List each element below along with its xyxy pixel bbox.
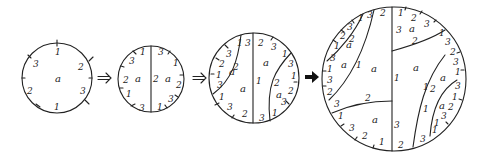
- edge-label: 3: [158, 47, 164, 57]
- disk-4: a a a a a a a a 3 2 1 2 3 1 3 2 3 1 3 2 …: [322, 7, 466, 151]
- edge-label: 1: [173, 58, 179, 68]
- edge-label: 1: [394, 73, 400, 83]
- face-label: a: [55, 73, 61, 84]
- edge-label: 3: [367, 10, 373, 20]
- face-label: a: [371, 63, 377, 74]
- edge-label: 2: [449, 47, 456, 57]
- edge-label: 3: [327, 75, 333, 85]
- double-arrow-icon: [193, 73, 206, 83]
- edge-label: 2: [287, 86, 294, 96]
- edge-label: 3: [259, 113, 265, 123]
- edge-label: 3: [334, 99, 340, 109]
- edge-label: 1: [439, 28, 445, 38]
- disk-3: a a a a 1 1 3 2 3 1 3 2 1 3 2 1 3 2 3 3 …: [209, 33, 299, 123]
- edge-label: 1: [423, 82, 429, 92]
- edge-label: 1: [356, 60, 362, 70]
- edge-label: 3: [80, 86, 86, 96]
- edge-label: 1: [398, 8, 404, 18]
- edge-label: 2: [339, 31, 346, 41]
- edge-label: 1: [423, 104, 429, 114]
- bold-arrow-icon: [305, 71, 319, 83]
- edge-label: 3: [129, 56, 135, 66]
- edge-label: 2: [379, 8, 386, 18]
- edge-label: 1: [434, 118, 440, 128]
- edge-label: 2: [122, 75, 129, 85]
- edge-label: 2: [175, 80, 182, 90]
- edge-label: 3: [424, 19, 430, 29]
- edge-label: 1: [272, 108, 278, 118]
- edge-label: 3: [139, 103, 145, 113]
- edge-label: 1: [157, 102, 163, 112]
- face-label: a: [341, 59, 347, 70]
- edge-label: 2: [26, 86, 33, 96]
- edge-label: 2: [326, 87, 333, 97]
- disk-2: a a 2 1 3 2 1 3 3 1 2 3 1: [118, 46, 184, 113]
- edge-label: 3: [445, 37, 451, 47]
- edge-label: 2: [152, 74, 159, 84]
- diagram-canvas: a 1 2 3 1 2 3 a a 2 1 3 2 1 3: [0, 0, 486, 159]
- edge-label: 3: [217, 80, 223, 90]
- edge-label: 1: [216, 70, 222, 80]
- edge-label: 3: [453, 57, 459, 67]
- edge-label: 3: [281, 97, 287, 107]
- edge-label: 2: [232, 62, 239, 72]
- edge-label: 1: [452, 92, 458, 102]
- face-label: a: [165, 73, 171, 84]
- face-label: a: [135, 73, 141, 84]
- edge-label: 1: [327, 64, 333, 74]
- disk-1: a 1 2 3 1 2 3: [22, 40, 93, 113]
- edge-label: 1: [126, 89, 132, 99]
- edge-label: 3: [168, 94, 174, 104]
- face-label: a: [413, 62, 419, 73]
- edge-label: 1: [219, 92, 225, 102]
- face-label: a: [439, 100, 445, 111]
- face-label: a: [263, 57, 269, 68]
- edge-label: 1: [338, 111, 344, 121]
- edge-label: 2: [77, 62, 84, 72]
- edge-label: 1: [334, 41, 340, 51]
- disk-3-boundary: [209, 33, 299, 123]
- edge-label: 3: [420, 134, 426, 144]
- edge-label: 3: [349, 123, 355, 133]
- edge-label: 3: [347, 22, 353, 32]
- edge-label: 2: [257, 38, 264, 48]
- edge-label: 3: [455, 81, 461, 91]
- edge-label: 1: [55, 47, 61, 57]
- edge-label: 3: [271, 42, 277, 52]
- edge-label: 1: [237, 38, 243, 48]
- edge-label: 3: [288, 59, 294, 69]
- edge-label: 3: [227, 102, 233, 112]
- face-label: a: [440, 72, 446, 83]
- double-arrow-icon: [98, 73, 111, 83]
- edge-label: 2: [411, 36, 418, 46]
- face-label: a: [372, 114, 378, 125]
- edge-label: 1: [54, 102, 60, 112]
- edge-label: 2: [429, 84, 436, 94]
- edge-label: 2: [410, 13, 417, 23]
- edge-label: 2: [447, 102, 454, 112]
- edge-label: 2: [361, 131, 368, 141]
- edge-label: 3: [33, 59, 39, 69]
- edge-label: 1: [358, 13, 364, 23]
- edge-label: 3: [394, 120, 400, 130]
- edge-label: 2: [348, 34, 355, 44]
- face-label: a: [240, 83, 246, 94]
- edge-label: 2: [273, 78, 280, 88]
- edge-label: 3: [396, 25, 402, 35]
- edge-label: 2: [364, 93, 371, 103]
- edge-label: 2: [397, 140, 404, 150]
- edge-label: 2: [218, 59, 225, 69]
- edge-label: 1: [379, 137, 385, 147]
- edge-label: 1: [282, 49, 288, 59]
- face-label: a: [409, 23, 415, 34]
- edge-label: 1: [455, 67, 461, 77]
- edge-label: 3: [245, 38, 251, 48]
- edge-label: 2: [241, 109, 248, 119]
- edge-label: 1: [291, 71, 297, 81]
- edge-label: 1: [140, 47, 146, 57]
- edge-label: 3: [441, 111, 447, 121]
- edge-label: 3: [226, 49, 232, 59]
- edge-label: 3: [330, 53, 336, 63]
- edge-label: 1: [256, 76, 262, 86]
